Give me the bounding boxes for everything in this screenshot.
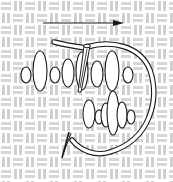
stitch-loop <box>105 51 119 91</box>
stitch-loop <box>21 67 31 83</box>
diagram-canvas <box>0 0 173 182</box>
stitch-loop <box>50 67 60 83</box>
stitch-loop <box>83 100 95 128</box>
stitch-loop <box>123 67 133 83</box>
stitch-loop <box>117 102 127 128</box>
stitch-loop <box>33 51 47 91</box>
stitch-loop <box>62 59 74 87</box>
stitch-loop <box>91 61 103 87</box>
stitch-loop <box>127 110 135 124</box>
fabric-background <box>0 0 173 182</box>
stitch-diagram: Bullion-style stitch worked on evenweave… <box>0 0 173 182</box>
